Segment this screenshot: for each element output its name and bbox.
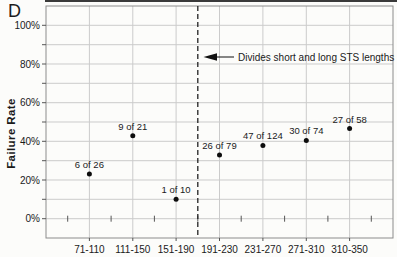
data-point [260,143,265,148]
x-tick-label: 191-230 [201,244,238,255]
data-point-label: 1 of 10 [162,184,191,195]
figure-panel: D Failure Rate 0%20%40%60%80%100%71-1101… [0,0,397,257]
y-tick-label: 40% [20,136,40,147]
x-tick-label: 231-270 [245,244,282,255]
x-tick-label: 111-150 [115,244,151,255]
data-point-label: 30 of 74 [289,125,323,136]
data-point-label: 27 of 58 [332,114,366,125]
data-point [130,133,135,138]
data-point [217,153,222,158]
data-point [87,172,92,177]
data-point-label: 26 of 79 [202,140,236,151]
annotation-text: Divides short and long STS lengths [238,52,394,63]
y-tick-label: 60% [20,97,40,108]
scatter-chart: 0%20%40%60%80%100%71-110111-150151-19019… [0,0,397,257]
x-tick-label: 151-190 [158,244,195,255]
data-point-label: 47 of 124 [243,130,283,141]
data-point-label: 9 of 21 [118,121,147,132]
divider-annotation: Divides short and long STS lengths [203,50,394,64]
x-tick-label: 271-310 [288,244,325,255]
y-tick-label: 100% [14,20,40,31]
left-arrow-icon [203,52,235,62]
y-tick-label: 0% [26,213,41,224]
data-point [174,197,179,202]
x-tick-label: 310-350 [331,244,368,255]
data-point-label: 6 of 26 [75,159,104,170]
y-tick-label: 20% [20,175,40,186]
x-tick-label: 71-110 [74,244,105,255]
y-tick-label: 80% [20,59,40,70]
data-point [304,138,309,143]
data-point [347,126,352,131]
